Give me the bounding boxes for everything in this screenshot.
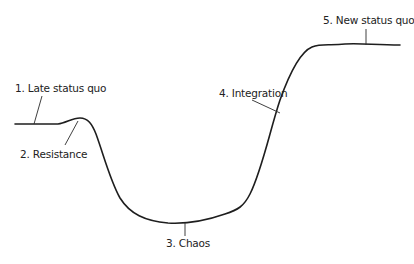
label-late-status-quo: 1. Late status quo: [15, 82, 106, 94]
label-resistance: 2. Resistance: [20, 148, 87, 160]
leader-line-integration: [252, 100, 280, 113]
leader-line-late-status-quo: [34, 96, 42, 124]
label-new-status-quo: 5. New status quo: [323, 14, 414, 26]
change-curve: [15, 44, 400, 223]
change-curve-diagram: 1. Late status quo 2. Resistance 3. Chao…: [0, 0, 414, 264]
label-integration: 4. Integration: [219, 87, 287, 99]
label-chaos: 3. Chaos: [166, 237, 210, 249]
leader-line-resistance: [65, 121, 78, 145]
